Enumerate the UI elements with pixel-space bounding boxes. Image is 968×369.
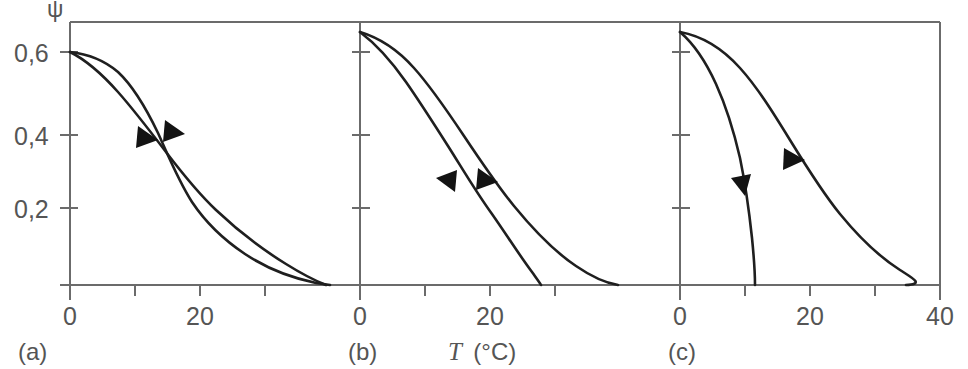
- panel-label-b: (b): [348, 338, 377, 365]
- panel-b: 0 20 (b) T (°C): [348, 22, 618, 365]
- panel-b-arrow-heating: [436, 170, 457, 192]
- y-tick-label-0.6: 0,6: [14, 39, 49, 67]
- panel-c-x-label-0: 0: [673, 302, 687, 330]
- panel-b-x-label-20: 20: [476, 302, 504, 330]
- x-axis-title-variable: T: [448, 338, 464, 365]
- figure-container: ψ 0,6 0,4 0,2 0 20 (a) 0 20 (b): [0, 0, 968, 369]
- panel-a: ψ 0,6 0,4 0,2 0 20 (a): [14, 0, 330, 365]
- panel-c-arrow-cooling: [783, 148, 805, 170]
- panel-a-lower-branch: [70, 52, 326, 285]
- panel-a-x-label-0: 0: [63, 302, 77, 330]
- plot-frame: [70, 22, 940, 285]
- panel-c: 0 20 40 (c): [668, 22, 954, 365]
- panel-label-a: (a): [18, 338, 47, 365]
- panel-c-x-label-40: 40: [926, 302, 954, 330]
- y-tick-label-0.2: 0,2: [14, 195, 49, 223]
- hysteresis-figure: ψ 0,6 0,4 0,2 0 20 (a) 0 20 (b): [0, 0, 968, 369]
- panel-a-upper-branch: [70, 52, 330, 285]
- panel-label-c: (c): [668, 338, 696, 365]
- panel-c-lower-branch: [680, 32, 755, 285]
- x-axis-title-unit: (°C): [473, 338, 516, 365]
- panel-b-x-label-0: 0: [353, 302, 367, 330]
- panel-a-arrow-cooling: [163, 120, 185, 142]
- x-axis-title: T (°C): [448, 338, 516, 365]
- panel-c-x-label-20: 20: [796, 302, 824, 330]
- panel-c-arrow-heating: [731, 174, 751, 196]
- panel-a-x-label-20: 20: [186, 302, 214, 330]
- y-axis-symbol: ψ: [47, 0, 63, 22]
- y-tick-label-0.4: 0,4: [14, 122, 49, 150]
- panel-b-lower-branch: [360, 32, 541, 285]
